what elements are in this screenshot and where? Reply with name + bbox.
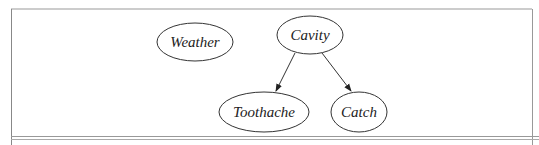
node-label-toothache: Toothache [233,104,295,120]
node-weather: Weather [157,23,233,61]
node-cavity: Cavity [277,16,343,54]
node-label-cavity: Cavity [290,27,329,43]
edge-cavity-catch [322,53,351,91]
node-toothache: Toothache [219,92,309,132]
node-label-catch: Catch [341,104,377,120]
node-catch: Catch [331,92,387,132]
node-label-weather: Weather [170,34,220,50]
edge-cavity-toothache [276,53,295,91]
bayes-net-diagram: Weather Cavity Toothache Catch [0,0,539,145]
edges [276,53,351,91]
